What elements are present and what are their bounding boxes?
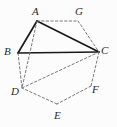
- edge-BD: [18, 53, 22, 88]
- geometry-canvas: [0, 0, 117, 127]
- edge-CF: [91, 52, 99, 86]
- vertex-label-G: G: [75, 6, 83, 17]
- edges-layer: [18, 21, 99, 104]
- edge-AD: [22, 21, 37, 88]
- edge-AB: [18, 21, 37, 53]
- vertex-label-F: F: [92, 84, 99, 95]
- vertex-label-D: D: [11, 86, 19, 97]
- edge-ED: [22, 88, 57, 104]
- edge-FE: [57, 86, 91, 104]
- vertex-label-C: C: [101, 45, 108, 56]
- edge-DC: [22, 52, 99, 88]
- geometry-figure: AGBCDFE: [0, 0, 117, 127]
- edge-AC: [37, 21, 99, 52]
- vertex-label-A: A: [32, 6, 39, 17]
- vertex-label-B: B: [4, 46, 11, 57]
- vertex-label-E: E: [54, 110, 61, 121]
